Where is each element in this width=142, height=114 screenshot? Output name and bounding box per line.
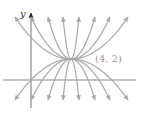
curve-up-4 [71, 17, 79, 59]
y-axis-label: y [19, 8, 26, 19]
point-label: (4, 2) [95, 53, 122, 64]
parabola-family-diagram: y (4, 2) [0, 0, 142, 114]
curve-up-3 [63, 17, 71, 59]
